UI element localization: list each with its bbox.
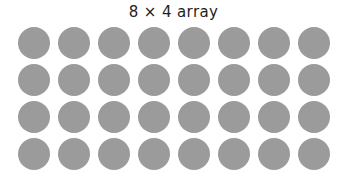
- dot-r1c3: [98, 27, 130, 59]
- dot-r1c8: [298, 27, 330, 59]
- dot-r4c1: [18, 138, 50, 170]
- dot-r2c2: [58, 64, 90, 96]
- dot-r3c1: [18, 101, 50, 133]
- dot-r2c4: [138, 64, 170, 96]
- dot-r2c3: [98, 64, 130, 96]
- dot-r2c8: [298, 64, 330, 96]
- dot-r2c1: [18, 64, 50, 96]
- dot-r3c7: [258, 101, 290, 133]
- dot-r4c5: [178, 138, 210, 170]
- dot-r2c6: [218, 64, 250, 96]
- dot-r4c7: [258, 138, 290, 170]
- dot-r3c6: [218, 101, 250, 133]
- dot-r2c7: [258, 64, 290, 96]
- figure-title: 8 × 4 array: [0, 2, 347, 22]
- dot-r4c3: [98, 138, 130, 170]
- dot-r1c7: [258, 27, 290, 59]
- dot-r4c6: [218, 138, 250, 170]
- dot-r4c4: [138, 138, 170, 170]
- dot-r1c5: [178, 27, 210, 59]
- dot-r3c2: [58, 101, 90, 133]
- dot-r3c3: [98, 101, 130, 133]
- dot-grid: [18, 27, 330, 170]
- dot-r3c4: [138, 101, 170, 133]
- array-figure: 8 × 4 array: [0, 0, 347, 183]
- dot-r2c5: [178, 64, 210, 96]
- dot-r1c1: [18, 27, 50, 59]
- dot-r4c2: [58, 138, 90, 170]
- dot-r1c6: [218, 27, 250, 59]
- dot-r1c2: [58, 27, 90, 59]
- dot-r3c8: [298, 101, 330, 133]
- dot-r4c8: [298, 138, 330, 170]
- dot-r3c5: [178, 101, 210, 133]
- dot-r1c4: [138, 27, 170, 59]
